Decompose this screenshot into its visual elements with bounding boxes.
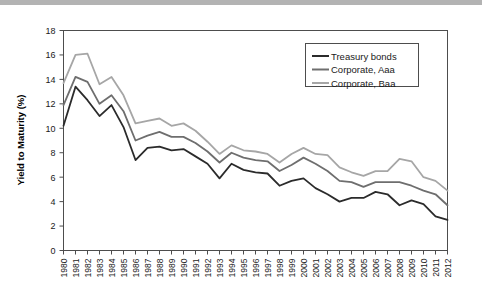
x-axis-tick-label: 1995 — [239, 258, 249, 277]
legend-label-1: Corporate, Aaa — [331, 64, 396, 75]
x-axis-tick-label: 1986 — [131, 258, 141, 277]
y-axis-tick-label: 8 — [50, 148, 55, 158]
x-axis-tick-label: 1989 — [167, 258, 177, 277]
x-axis-tick-label: 1993 — [215, 258, 225, 277]
x-axis-tick-label: 1990 — [179, 258, 189, 277]
y-axis-tick-label: 4 — [50, 197, 55, 207]
x-axis-tick-label: 1999 — [287, 258, 297, 277]
x-axis-tick-label: 2008 — [395, 258, 405, 277]
legend-label-0: Treasury bonds — [331, 51, 397, 62]
x-axis-tick-label: 1983 — [95, 258, 105, 277]
yield-to-maturity-line-chart: 024681012141618 198019811982198319841985… — [0, 0, 482, 291]
x-axis-tick-label: 2000 — [299, 258, 309, 277]
x-axis-tick-label: 2011 — [431, 258, 441, 277]
y-axis-tick-label: 14 — [45, 75, 55, 85]
x-axis-tick-label: 1994 — [227, 258, 237, 277]
x-axis-tick-label: 2002 — [323, 258, 333, 277]
x-axis: 1980198119821983198419851986198719881989… — [59, 251, 453, 278]
y-axis-tick-label: 18 — [45, 26, 55, 36]
x-axis-tick-label: 2004 — [347, 258, 357, 277]
x-axis-tick-label: 1997 — [263, 258, 273, 277]
y-axis-tick-label: 12 — [45, 99, 55, 109]
x-axis-tick-label: 2005 — [359, 258, 369, 277]
x-axis-tick-label: 1982 — [83, 258, 93, 277]
y-axis-tick-label: 16 — [45, 50, 55, 60]
y-axis: 024681012141618 — [45, 26, 63, 256]
x-axis-tick-label: 2012 — [443, 258, 453, 277]
x-axis-tick-label: 1980 — [59, 258, 69, 277]
y-axis-title: Yield to Maturity (%) — [15, 95, 26, 186]
x-axis-tick-label: 1981 — [71, 258, 81, 277]
x-axis-tick-label: 1992 — [203, 258, 213, 277]
x-axis-tick-label: 2003 — [335, 258, 345, 277]
x-axis-tick-label: 2010 — [419, 258, 429, 277]
x-axis-tick-label: 2009 — [407, 258, 417, 277]
y-axis-tick-label: 2 — [50, 221, 55, 231]
x-axis-tick-label: 1991 — [191, 258, 201, 277]
y-axis-tick-label: 6 — [50, 173, 55, 183]
chart-figure: 024681012141618 198019811982198319841985… — [0, 0, 482, 291]
x-axis-tick-label: 2007 — [383, 258, 393, 277]
y-axis-tick-label: 0 — [50, 246, 55, 256]
x-axis-tick-label: 1988 — [155, 258, 165, 277]
x-axis-tick-label: 1987 — [143, 258, 153, 277]
x-axis-tick-label: 1984 — [107, 258, 117, 277]
legend-label-2: Corporate, Baa — [331, 78, 396, 89]
x-axis-tick-label: 2006 — [371, 258, 381, 277]
y-axis-tick-label: 10 — [45, 124, 55, 134]
chart-legend: Treasury bondsCorporate, AaaCorporate, B… — [306, 44, 419, 89]
x-axis-tick-label: 2001 — [311, 258, 321, 277]
x-axis-tick-label: 1996 — [251, 258, 261, 277]
x-axis-tick-label: 1985 — [119, 258, 129, 277]
x-axis-tick-label: 1998 — [275, 258, 285, 277]
